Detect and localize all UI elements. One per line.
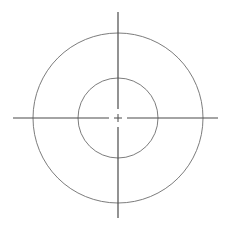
- figure-background: [0, 0, 232, 229]
- figure-canvas: [0, 0, 232, 229]
- target-diagram: [0, 0, 232, 229]
